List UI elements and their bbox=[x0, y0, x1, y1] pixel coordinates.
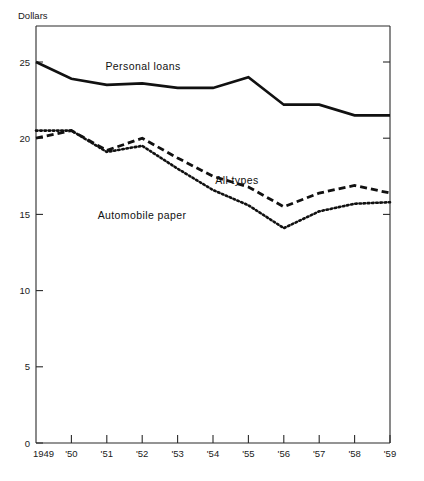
x-tick-label: '54 bbox=[207, 448, 219, 459]
x-tick-label: '59 bbox=[384, 448, 396, 459]
x-tick-label: '56 bbox=[278, 448, 290, 459]
series-lines bbox=[36, 62, 390, 228]
y-tick-label: 20 bbox=[19, 133, 30, 144]
chart-container: Dollars 0510152025 1949'50'51'52'53'54'5… bbox=[0, 0, 424, 481]
x-tick-label: '51 bbox=[101, 448, 113, 459]
series-line-personal-loans bbox=[36, 62, 390, 115]
series-line-automobile-paper bbox=[36, 131, 390, 229]
line-chart: Dollars 0510152025 1949'50'51'52'53'54'5… bbox=[0, 0, 424, 481]
y-tick-label: 10 bbox=[19, 285, 30, 296]
series-label-automobile-paper: Automobile paper bbox=[98, 209, 187, 221]
y-axis-ticks: 0510152025 bbox=[19, 57, 43, 449]
y-tick-label: 15 bbox=[19, 209, 30, 220]
x-tick-label: '57 bbox=[313, 448, 325, 459]
y-axis-caption: Dollars bbox=[18, 10, 48, 21]
x-tick-label: '55 bbox=[242, 448, 254, 459]
series-label-all-types: All types bbox=[215, 174, 258, 186]
x-tick-label: '58 bbox=[348, 448, 360, 459]
x-tick-label: '53 bbox=[171, 448, 183, 459]
x-axis-ticks: 1949'50'51'52'53'54'55'56'57'58'59 bbox=[33, 435, 396, 459]
y-tick-label: 25 bbox=[19, 57, 30, 68]
x-tick-label: '52 bbox=[136, 448, 148, 459]
series-label-personal-loans: Personal loans bbox=[105, 60, 180, 72]
y-tick-label: 0 bbox=[25, 438, 30, 449]
x-tick-label: '50 bbox=[65, 448, 77, 459]
y-tick-label: 5 bbox=[25, 361, 30, 372]
x-tick-label: 1949 bbox=[33, 448, 54, 459]
